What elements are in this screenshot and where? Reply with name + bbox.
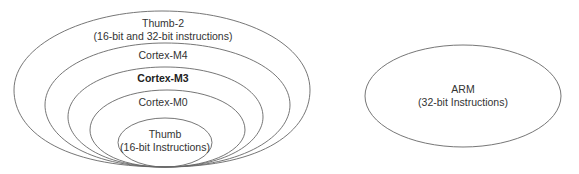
label-thumb2-subtitle: (16-bit and 32-bit instructions) — [94, 30, 233, 43]
label-arm-title: ARM — [418, 83, 508, 96]
label-cortex-m0: Cortex-M0 — [138, 96, 187, 109]
label-arm: ARM (32-bit Instructions) — [418, 83, 508, 109]
label-thumb: Thumb (16-bit Instructions) — [120, 128, 210, 154]
label-cortex-m4: Cortex-M4 — [138, 49, 187, 62]
label-cortex-m3: Cortex-M3 — [137, 72, 188, 85]
label-thumb2: Thumb-2 (16-bit and 32-bit instructions) — [94, 17, 233, 43]
label-thumb-title: Thumb — [120, 128, 210, 141]
label-arm-subtitle: (32-bit Instructions) — [418, 96, 508, 109]
label-thumb2-title: Thumb-2 — [94, 17, 233, 30]
label-thumb-subtitle: (16-bit Instructions) — [120, 141, 210, 154]
